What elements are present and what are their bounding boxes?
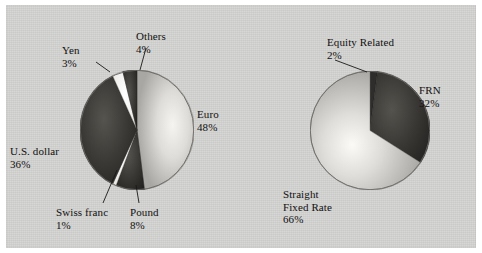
label-frn-name: FRN	[419, 84, 441, 96]
label-pound-name: Pound	[130, 206, 159, 218]
label-swiss-franc-name: Swiss franc	[56, 206, 108, 218]
label-pound: Pound 8%	[130, 206, 159, 231]
label-us-dollar-percent: 36%	[10, 158, 59, 171]
label-swiss-franc: Swiss franc 1%	[56, 206, 108, 231]
label-yen: Yen 3%	[62, 44, 80, 69]
pie-instruments-graphic	[310, 71, 430, 190]
label-straight-fixed-rate-name2: Fixed Rate	[283, 201, 332, 214]
label-straight-fixed-rate: Straight Fixed Rate 66%	[283, 188, 332, 226]
label-euro-percent: 48%	[197, 121, 219, 134]
label-yen-name: Yen	[62, 44, 80, 56]
figure-container: Yen 3% Others 4% Euro 48% U.S. dollar 36…	[0, 0, 482, 253]
slice-euro	[137, 70, 194, 190]
pie-chart-currency: Yen 3% Others 4% Euro 48% U.S. dollar 36…	[0, 0, 241, 253]
label-equity-related: Equity Related 2%	[327, 36, 394, 61]
label-pound-percent: 8%	[130, 219, 159, 232]
pie-instruments-svg	[310, 71, 430, 190]
label-straight-fixed-rate-percent: 66%	[283, 213, 332, 226]
label-euro: Euro 48%	[197, 108, 219, 133]
label-yen-percent: 3%	[62, 57, 80, 70]
label-others-percent: 4%	[136, 43, 166, 56]
label-swiss-franc-percent: 1%	[56, 219, 108, 232]
label-frn-percent: 32%	[419, 97, 441, 110]
label-euro-name: Euro	[197, 108, 219, 120]
label-others-name: Others	[136, 30, 166, 42]
pie-currency-graphic	[80, 70, 194, 190]
pie-chart-instruments: Equity Related 2% FRN 32% Straight Fixed…	[241, 0, 482, 253]
label-others: Others 4%	[136, 30, 166, 55]
label-equity-related-percent: 2%	[327, 49, 394, 62]
label-equity-related-name: Equity Related	[327, 36, 394, 48]
label-straight-fixed-rate-name: Straight	[283, 188, 319, 200]
label-frn: FRN 32%	[419, 84, 441, 109]
pie-currency-svg	[80, 70, 194, 190]
label-us-dollar-name: U.S. dollar	[10, 145, 59, 157]
label-us-dollar: U.S. dollar 36%	[10, 145, 59, 170]
